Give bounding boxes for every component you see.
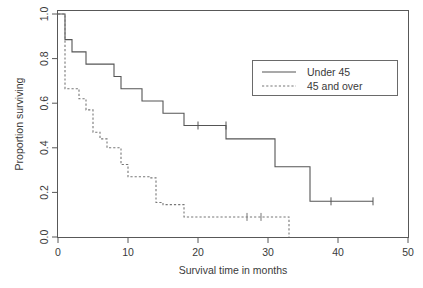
x-axis-ticks <box>58 238 408 244</box>
x-tick-label: 20 <box>192 246 204 258</box>
survival-chart: 1.0 0.8 0.6 0.4 0.2 0.0 Proportion survi… <box>0 0 423 288</box>
series-line-under-45 <box>58 14 373 201</box>
legend-label-under-45: Under 45 <box>307 66 350 78</box>
x-tick-label: 10 <box>122 246 134 258</box>
x-tick-label: 50 <box>402 246 414 258</box>
y-axis-ticks <box>52 14 58 237</box>
x-axis-title: Survival time in months <box>179 264 288 276</box>
x-axis-tick-labels: 0 10 20 30 40 50 <box>55 246 414 258</box>
series-layer <box>58 14 373 237</box>
plot-frame <box>58 11 409 238</box>
x-tick-label: 40 <box>332 246 344 258</box>
y-axis-tick-labels: 1.0 0.8 0.6 0.4 0.2 0.0 <box>38 7 50 245</box>
y-tick-label: 0.0 <box>38 230 50 245</box>
y-tick-label: 0.4 <box>38 140 50 155</box>
legend-label-45-and-over: 45 and over <box>307 80 363 92</box>
x-tick-label: 30 <box>262 246 274 258</box>
x-tick-label: 0 <box>55 246 61 258</box>
y-axis-title: Proportion surviving <box>13 77 25 170</box>
y-tick-label: 0.2 <box>38 185 50 200</box>
chart-canvas: 1.0 0.8 0.6 0.4 0.2 0.0 Proportion survi… <box>0 0 423 288</box>
y-tick-label: 1.0 <box>38 7 50 22</box>
legend: Under 45 45 and over <box>253 61 398 96</box>
series-line-45-and-over <box>58 14 289 237</box>
y-tick-label: 0.8 <box>38 51 50 66</box>
y-tick-label: 0.6 <box>38 96 50 111</box>
